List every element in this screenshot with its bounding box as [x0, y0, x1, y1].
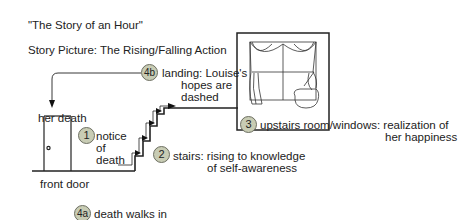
step-badge-3: 3	[240, 116, 257, 133]
step-4b-line-2: hopes are	[181, 79, 232, 91]
step-4b-line-3: dashed	[181, 91, 219, 103]
step-badge-4a: 4a	[74, 205, 91, 220]
step-1-line-3: death	[96, 154, 125, 166]
step-badge-4b: 4b	[141, 64, 158, 81]
step-2-line-1: stairs: rising to knowledge	[173, 150, 305, 162]
step-3-line-2: her happiness	[385, 131, 457, 143]
step-4a-line-1: death walks in	[94, 208, 167, 220]
step-4b-line-1: landing: Louise's	[162, 67, 247, 79]
step-badge-1: 1	[78, 127, 95, 144]
step-badge-2: 2	[153, 146, 170, 163]
step-3-line-1: upstairs room/windows: realization of	[260, 119, 449, 131]
step-2-line-2: of self-awareness	[207, 162, 297, 174]
down-arrow-icon	[49, 100, 55, 108]
window-icon	[250, 42, 319, 108]
front-door-label: front door	[40, 178, 89, 190]
step-1-line-2: of	[96, 142, 106, 154]
diagram-title: "The Story of an Hour"	[28, 19, 143, 31]
step-1-line-1: notice	[96, 130, 127, 142]
diagram-subtitle: Story Picture: The Rising/Falling Action	[28, 44, 227, 56]
front-door-icon	[44, 116, 71, 171]
her-death-label: her death	[38, 112, 87, 124]
fall-arrow-line	[52, 73, 141, 102]
